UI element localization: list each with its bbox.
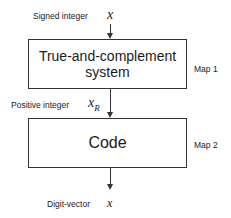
intermediate-label: Positive integer: [11, 100, 69, 110]
box1-line2: system: [39, 64, 176, 80]
box1-line1: True-and-complement: [39, 48, 176, 64]
box2-text: Code: [88, 134, 126, 152]
intermediate-symbol: xR: [88, 95, 100, 113]
output-label: Digit-vector: [47, 199, 90, 209]
code-box: Code: [28, 118, 187, 168]
arrow-out-head: [107, 184, 113, 190]
output-symbol: x: [107, 196, 112, 211]
arrow-out-line: [110, 168, 111, 185]
map1-label: Map 1: [194, 64, 218, 74]
true-and-complement-box: True-and-complement system: [28, 39, 187, 89]
arrow-mid-line: [110, 89, 111, 113]
input-label: Signed integer: [33, 11, 88, 21]
input-symbol: x: [107, 7, 113, 23]
map2-label: Map 2: [194, 140, 218, 150]
